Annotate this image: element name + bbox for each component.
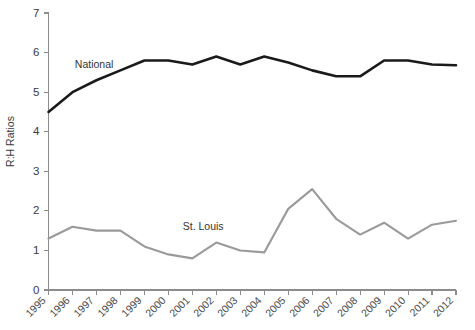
x-tick-group: 1995199619971998199920002001200220032004…: [23, 290, 456, 319]
y-axis-group: 01234567: [33, 7, 48, 296]
x-tick-label: 2002: [191, 294, 216, 319]
y-axis-title: R:H Ratios: [4, 116, 16, 167]
x-tick-label: 2000: [143, 294, 168, 319]
y-tick-label: 1: [33, 244, 39, 256]
x-tick-label: 2003: [215, 294, 240, 319]
x-tick-label: 1998: [95, 294, 120, 319]
y-tick-label: 2: [33, 204, 39, 216]
y-tick-label: 5: [33, 86, 39, 98]
y-tick-label: 7: [33, 7, 39, 19]
x-tick-label: 2010: [382, 294, 407, 319]
x-tick-label: 2006: [287, 294, 312, 319]
y-tick-label: 3: [33, 165, 39, 177]
series-line-st-louis: [49, 189, 457, 258]
x-tick-label: 2001: [167, 294, 192, 319]
y-tick-label: 6: [33, 46, 39, 58]
series-label-national: National: [75, 58, 114, 70]
x-tick-label: 2007: [311, 294, 336, 319]
x-tick-label: 2005: [263, 294, 288, 319]
y-tick-label: 4: [33, 125, 40, 137]
line-chart: 01234567 1995199619971998199920002001200…: [0, 0, 475, 330]
x-tick-label: 1995: [23, 294, 48, 319]
x-axis-group: 1995199619971998199920002001200220032004…: [23, 290, 456, 319]
x-tick-label: 2012: [430, 294, 455, 319]
x-tick-label: 1997: [71, 294, 96, 319]
x-tick-label: 2004: [239, 294, 264, 319]
x-tick-label: 1999: [119, 294, 144, 319]
y-tick-group: 01234567: [33, 7, 48, 296]
series-label-st-louis: St. Louis: [183, 220, 224, 232]
x-tick-label: 2011: [407, 294, 432, 319]
chart-container: 01234567 1995199619971998199920002001200…: [0, 0, 475, 330]
series-annotation-group: NationalSt. Louis: [75, 58, 224, 232]
x-tick-label: 2008: [335, 294, 360, 319]
series-group: [49, 57, 457, 259]
x-tick-label: 2009: [358, 294, 383, 319]
x-tick-label: 1996: [47, 294, 72, 319]
